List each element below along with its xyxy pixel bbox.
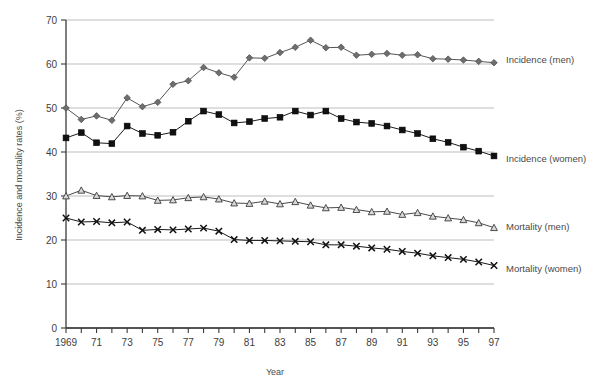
x-tick-label: 79 bbox=[213, 337, 225, 348]
x-tick-label: 81 bbox=[244, 337, 256, 348]
y-tick-label: 60 bbox=[46, 59, 58, 70]
x-tick-label: 73 bbox=[122, 337, 134, 348]
x-tick-label: 89 bbox=[366, 337, 378, 348]
y-axis-ticks: 010203040506070 bbox=[46, 15, 66, 334]
data-point-marker bbox=[414, 51, 421, 58]
data-point-marker bbox=[491, 59, 498, 66]
data-point-marker bbox=[139, 103, 146, 110]
x-tick-label: 95 bbox=[458, 337, 470, 348]
data-point-marker bbox=[277, 49, 284, 56]
data-point-marker bbox=[78, 130, 84, 136]
data-point-marker bbox=[491, 262, 497, 268]
y-tick-label: 30 bbox=[46, 191, 58, 202]
data-point-marker bbox=[109, 141, 115, 147]
data-point-marker bbox=[308, 112, 314, 118]
x-tick-label: 97 bbox=[488, 337, 500, 348]
x-tick-label: 77 bbox=[183, 337, 195, 348]
data-point-marker bbox=[185, 118, 191, 124]
data-point-marker bbox=[216, 112, 222, 118]
data-series-layer bbox=[63, 37, 498, 269]
x-tick-label: 75 bbox=[152, 337, 164, 348]
data-point-marker bbox=[155, 132, 161, 138]
line-chart: 010203040506070 196971737577798183858789… bbox=[0, 0, 601, 385]
data-point-marker bbox=[262, 116, 268, 122]
series-incidence-women bbox=[63, 108, 497, 159]
data-point-marker bbox=[399, 52, 406, 59]
data-point-marker bbox=[307, 37, 314, 44]
data-point-marker bbox=[231, 120, 237, 126]
data-point-marker bbox=[369, 121, 375, 127]
data-point-marker bbox=[491, 153, 497, 159]
x-tick-label: 87 bbox=[336, 337, 348, 348]
x-tick-label: 91 bbox=[397, 337, 409, 348]
data-point-marker bbox=[124, 95, 131, 102]
data-point-marker bbox=[354, 119, 360, 125]
legend-label-mortality-men: Mortality (men) bbox=[506, 221, 569, 232]
data-point-marker bbox=[277, 114, 283, 120]
data-point-marker bbox=[93, 113, 100, 120]
data-point-marker bbox=[323, 108, 329, 114]
x-tick-label: 83 bbox=[274, 337, 286, 348]
data-point-marker bbox=[109, 117, 116, 124]
data-point-marker bbox=[201, 108, 207, 114]
data-point-marker bbox=[170, 129, 176, 135]
legend-label-incidence-women: Incidence (women) bbox=[506, 153, 586, 164]
series-mortality-men bbox=[63, 187, 498, 231]
data-point-marker bbox=[124, 123, 130, 129]
data-point-marker bbox=[94, 140, 100, 146]
data-point-marker bbox=[247, 119, 253, 125]
data-point-marker bbox=[460, 57, 467, 64]
y-tick-label: 20 bbox=[46, 235, 58, 246]
data-point-marker bbox=[445, 56, 452, 63]
data-point-marker bbox=[399, 127, 405, 133]
data-point-marker bbox=[384, 50, 391, 57]
y-tick-label: 50 bbox=[46, 103, 58, 114]
data-point-marker bbox=[415, 131, 421, 137]
data-point-marker bbox=[476, 148, 482, 154]
data-point-marker bbox=[140, 131, 146, 137]
legend: Incidence (men)Incidence (women)Mortalit… bbox=[506, 54, 586, 274]
x-axis-title: Year bbox=[266, 367, 284, 377]
data-point-marker bbox=[323, 44, 330, 51]
data-point-marker bbox=[430, 55, 437, 62]
data-point-marker bbox=[216, 70, 223, 77]
legend-label-incidence-men: Incidence (men) bbox=[506, 54, 574, 65]
data-point-marker bbox=[292, 108, 298, 114]
data-point-marker bbox=[63, 135, 69, 141]
y-tick-label: 10 bbox=[46, 279, 58, 290]
data-point-marker bbox=[78, 187, 85, 193]
y-tick-label: 0 bbox=[51, 323, 57, 334]
data-point-marker bbox=[368, 51, 375, 58]
x-tick-label: 71 bbox=[91, 337, 103, 348]
data-point-marker bbox=[261, 198, 268, 204]
x-axis-ticks: 19697173757779818385878991939597 bbox=[55, 328, 500, 348]
x-tick-label: 1969 bbox=[55, 337, 78, 348]
y-tick-label: 40 bbox=[46, 147, 58, 158]
data-point-marker bbox=[338, 44, 345, 51]
series-mortality-women bbox=[63, 215, 497, 269]
series-incidence-men bbox=[63, 37, 498, 124]
chart-container: 010203040506070 196971737577798183858789… bbox=[0, 0, 601, 385]
data-point-marker bbox=[414, 209, 421, 215]
data-point-marker bbox=[430, 136, 436, 142]
data-point-marker bbox=[445, 139, 451, 145]
data-point-marker bbox=[338, 116, 344, 122]
legend-label-mortality-women: Mortality (women) bbox=[506, 263, 582, 274]
data-point-marker bbox=[384, 123, 390, 129]
data-point-marker bbox=[261, 55, 268, 62]
data-point-marker bbox=[353, 52, 360, 59]
data-point-marker bbox=[461, 144, 467, 150]
y-axis-title: Incidence and mortality rates (%) bbox=[14, 109, 24, 241]
y-tick-label: 70 bbox=[46, 15, 58, 26]
x-tick-label: 93 bbox=[427, 337, 439, 348]
x-tick-label: 85 bbox=[305, 337, 317, 348]
data-point-marker bbox=[292, 198, 299, 204]
data-point-marker bbox=[292, 44, 299, 51]
axes bbox=[66, 20, 494, 328]
gridlines bbox=[66, 20, 494, 328]
